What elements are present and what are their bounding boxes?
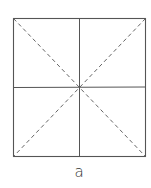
figure-caption: a [0,163,151,181]
folding-diagram [0,0,151,188]
horizontal-center-line [14,87,146,88]
